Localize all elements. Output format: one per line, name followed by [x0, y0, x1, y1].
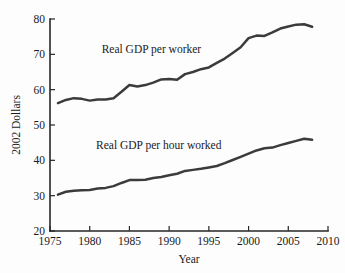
y-tick-label: 50 [34, 119, 46, 131]
x-axis-tick-labels: 19751980198519901995200020052010 [39, 235, 340, 247]
x-tick-label: 1990 [158, 235, 181, 247]
y-tick-label: 70 [34, 48, 46, 60]
x-axis-title: Year [178, 253, 199, 265]
series-annotation-label: Real GDP per hour worked [96, 139, 222, 152]
chart-figure: 20304050607080 1975198019851990199520002… [0, 0, 345, 273]
x-tick-label: 1985 [118, 235, 141, 247]
x-tick-label: 2010 [317, 235, 340, 247]
y-tick-label: 40 [34, 154, 46, 166]
x-tick-label: 2000 [237, 235, 260, 247]
series-line [58, 24, 312, 103]
y-axis-title: 2002 Dollars [10, 95, 22, 155]
y-axis-tick-labels: 20304050607080 [34, 13, 46, 237]
y-tick-label: 60 [34, 84, 46, 96]
series-annotation-label: Real GDP per worker [102, 43, 202, 56]
y-tick-label: 30 [34, 190, 46, 202]
x-tick-label: 1975 [39, 235, 62, 247]
line-chart: 20304050607080 1975198019851990199520002… [0, 0, 345, 273]
x-tick-label: 1995 [197, 235, 220, 247]
x-tick-label: 1980 [78, 235, 101, 247]
x-tick-label: 2005 [277, 235, 300, 247]
y-tick-label: 80 [34, 13, 46, 25]
